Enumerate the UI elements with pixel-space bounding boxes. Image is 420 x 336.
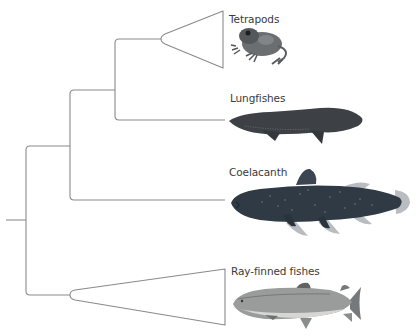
taxon-label-ray-finned-fishes: Ray-finned fishes — [231, 265, 320, 277]
trout-icon — [0, 0, 420, 336]
taxon-label-lungfishes: Lungfishes — [230, 92, 285, 104]
phylogenetic-tree-figure: Tetrapods Lungfishes Coelacanth Ray-finn… — [0, 0, 420, 336]
taxon-label-tetrapods: Tetrapods — [229, 13, 279, 25]
taxon-label-coelacanth: Coelacanth — [229, 166, 287, 178]
